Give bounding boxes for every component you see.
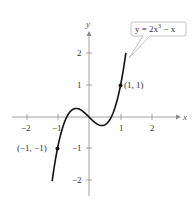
graph: x y −2 −1 1 2 2 1 −1 −2 (1, 1) (−1, −1) … [0, 0, 196, 205]
y-tick-label: −2 [72, 175, 82, 185]
x-axis-arrow-icon [176, 115, 181, 120]
x-tick-label: −1 [52, 123, 62, 133]
y-tick-label: −1 [72, 143, 82, 153]
point-m1-m1 [56, 147, 60, 151]
point-label: (1, 1) [124, 80, 144, 90]
y-tick-label: 1 [77, 80, 82, 90]
x-tick-label: −2 [21, 123, 31, 133]
equation-label: y = 2x3 − x [135, 23, 176, 34]
y-axis-label: y [85, 19, 90, 29]
y-axis-arrow-icon [87, 31, 92, 36]
point-label: (−1, −1) [17, 143, 47, 153]
y-tick-label: 2 [77, 48, 82, 58]
x-tick-label: 2 [150, 123, 155, 133]
x-axis-label: x [182, 112, 187, 122]
point-1-1 [119, 84, 123, 88]
x-tick-label: 1 [119, 123, 124, 133]
